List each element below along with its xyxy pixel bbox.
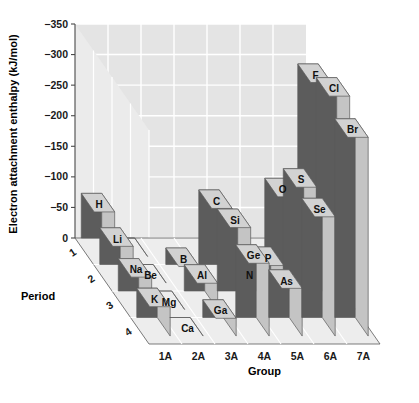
bar-label-S: S [298,174,305,185]
y-tick-label-6: −300 [44,48,68,60]
bar-label-Si: Si [230,215,240,226]
period-tick-label-2: 3 [104,298,116,311]
group-tick-label-2: 3A [225,350,239,362]
group-tick-label-6: 7A [357,350,371,362]
period-tick-label-1: 2 [85,272,97,285]
bar-label-As: As [280,276,293,287]
bar-label-Ga: Ga [214,305,228,316]
bar-front-Br [335,119,355,318]
y-tick-label-1: −50 [50,201,68,213]
chart-canvas: HLiBeBCNOFNaMgAlSiPSClKCaGaGeAsSeBr0−50−… [0,0,419,403]
bar-label-N: N [246,270,253,281]
bar-label-Cl: Cl [329,83,339,94]
bar-label-Mg: Mg [162,297,176,308]
bar-label-Br: Br [347,124,358,135]
bar-label-Ca: Ca [181,323,194,334]
period-tick-label-0: 1 [67,245,79,258]
bar-label-Ge: Ge [247,250,261,261]
group-tick-label-0: 1A [159,350,173,362]
bar-side-Br [355,119,368,336]
bar-label-P: P [265,253,272,264]
y-axis-title: Electron attachment enthalpy (kJ/mol) [7,34,19,234]
y-tick-label-3: −150 [44,140,68,152]
bar-label-O: O [279,184,287,195]
bar-label-H: H [95,199,102,210]
bar-side-Se [322,198,335,336]
bar-label-Na: Na [130,264,143,275]
electron-attachment-enthalpy-chart: HLiBeBCNOFNaMgAlSiPSClKCaGaGeAsSeBr0−50−… [0,0,419,403]
bar-label-F: F [312,70,318,81]
group-tick-label-1: 2A [192,350,206,362]
x-axis-title: Group [248,365,281,377]
y-tick-label-4: −200 [44,109,68,121]
y-tick-label-5: −250 [44,79,68,91]
group-tick-label-3: 4A [258,350,272,362]
bar-label-Se: Se [313,204,326,215]
y-tick-label-7: −350 [44,18,68,30]
bar-label-K: K [151,294,159,305]
y-tick-label-2: −100 [44,170,68,182]
group-tick-label-5: 6A [324,350,338,362]
bar-label-Li: Li [113,234,122,245]
y-tick-label-0: 0 [62,232,68,244]
bar-label-C: C [213,196,220,207]
period-axis-title: Period [21,290,55,302]
group-tick-label-4: 5A [291,350,305,362]
period-tick-label-3: 4 [122,325,134,338]
bar-label-Al: Al [197,270,207,281]
bar-label-Be: Be [144,270,157,281]
bar-label-B: B [180,254,187,265]
